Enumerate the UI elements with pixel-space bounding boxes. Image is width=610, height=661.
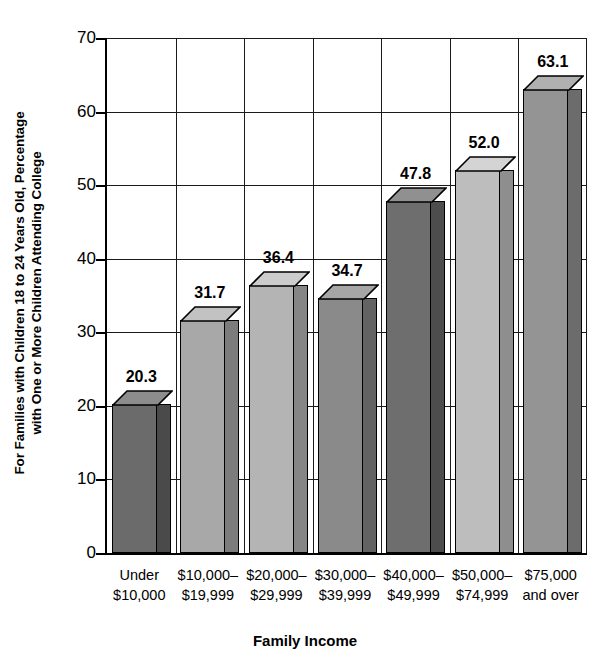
bar: [318, 284, 377, 553]
bar-top-face: [386, 187, 447, 203]
y-axis-tick-labels: 010203040506070: [50, 0, 96, 661]
x-axis-tick-label-line: $39,999: [315, 586, 375, 606]
bar-front-face: [112, 404, 157, 553]
y-axis-tick-label: 10: [52, 469, 96, 489]
bar-side-face: [225, 320, 239, 553]
bar-side-face: [500, 170, 514, 553]
bar-top-face: [249, 271, 310, 287]
y-axis-tick-mark: [96, 479, 107, 481]
x-axis-tick-label-line: Under: [113, 566, 165, 586]
x-axis-tick-label: $75,000and over: [522, 566, 578, 605]
gridline-horizontal: [107, 112, 587, 113]
y-axis-tick-label: 30: [52, 322, 96, 342]
y-axis-tick-label: 0: [52, 543, 96, 563]
bar-value-label: 20.3: [126, 368, 157, 386]
bar-side-face: [157, 404, 171, 553]
gridline-vertical: [518, 38, 519, 553]
bar-value-label: 34.7: [331, 262, 362, 280]
bar-front-face: [318, 298, 363, 553]
bar-front-face: [386, 201, 431, 553]
bar-side-face: [568, 89, 582, 553]
y-axis-tick-mark: [96, 332, 107, 334]
y-axis-tick-mark: [96, 406, 107, 408]
x-axis-tick-label: $10,000–$19,999: [178, 566, 238, 605]
plot-area: 20.331.736.434.747.852.063.1: [105, 38, 587, 555]
gridline-vertical: [381, 38, 382, 553]
x-axis-tick-label-line: $29,999: [246, 586, 306, 606]
x-axis-tick-label-line: $49,999: [383, 586, 443, 606]
bar-front-face: [523, 89, 568, 553]
bar-value-label: 36.4: [263, 249, 294, 267]
y-axis-tick-label: 40: [52, 249, 96, 269]
bar-top-face: [455, 156, 516, 172]
x-axis-tick-labels: Under$10,000$10,000–$19,999$20,000–$29,9…: [105, 566, 585, 614]
bar-side-face: [294, 285, 308, 553]
x-axis-tick-label-line: $40,000–: [383, 566, 443, 586]
bar-value-label: 52.0: [469, 134, 500, 152]
x-axis-tick-label-line: $30,000–: [315, 566, 375, 586]
bar-value-label: 31.7: [194, 284, 225, 302]
bar: [249, 271, 308, 553]
gridline-horizontal: [107, 185, 587, 186]
y-axis-tick-label: 60: [52, 102, 96, 122]
gridline-vertical: [450, 38, 451, 553]
gridline-vertical: [176, 38, 177, 553]
gridline-horizontal: [107, 259, 587, 260]
bar-top-face: [318, 284, 379, 300]
y-axis-tick-mark: [96, 112, 107, 114]
bar: [112, 390, 171, 553]
x-axis-tick-label: $50,000–$74,999: [452, 566, 512, 605]
x-axis-tick-label-line: and over: [522, 586, 578, 606]
bar-front-face: [455, 170, 500, 553]
bar: [455, 156, 514, 553]
bar-side-face: [363, 298, 377, 553]
y-axis-title: For Families with Children 18 to 24 Year…: [0, 0, 56, 585]
y-axis-tick-mark: [96, 185, 107, 187]
bar: [386, 187, 445, 553]
bar-value-label: 63.1: [537, 53, 568, 71]
bar: [523, 75, 582, 553]
x-axis-tick-label-line: $10,000: [113, 586, 165, 606]
bar-front-face: [180, 320, 225, 553]
gridline-vertical: [244, 38, 245, 553]
bar-chart-figure: For Families with Children 18 to 24 Year…: [0, 0, 610, 661]
bar-top-face: [112, 390, 173, 406]
y-axis-tick-mark: [96, 259, 107, 261]
y-axis-tick-mark: [96, 38, 107, 40]
x-axis-tick-label-line: $20,000–: [246, 566, 306, 586]
bar-value-label: 47.8: [400, 165, 431, 183]
bar: [180, 306, 239, 553]
y-axis-title-line-1: For Families with Children 18 to 24 Year…: [11, 13, 28, 573]
bar-front-face: [249, 285, 294, 553]
y-axis-tick-label: 20: [52, 396, 96, 416]
x-axis-tick-label-line: $74,999: [452, 586, 512, 606]
x-axis-tick-label: Under$10,000: [113, 566, 165, 605]
y-axis-title-line-2: with One or More Children Attending Coll…: [28, 13, 45, 573]
x-axis-tick-label: $40,000–$49,999: [383, 566, 443, 605]
y-axis-tick-label: 70: [52, 28, 96, 48]
x-axis-tick-label-line: $10,000–: [178, 566, 238, 586]
x-axis-tick-label: $20,000–$29,999: [246, 566, 306, 605]
bar-side-face: [431, 201, 445, 553]
plot-right-border: [586, 38, 587, 553]
bar-top-face: [523, 75, 584, 91]
gridline-vertical: [313, 38, 314, 553]
x-axis-tick-label-line: $75,000: [522, 566, 578, 586]
y-axis-tick-mark: [96, 553, 107, 555]
gridline-horizontal: [107, 38, 587, 39]
x-axis-tick-label-line: $19,999: [178, 586, 238, 606]
x-axis-tick-label: $30,000–$39,999: [315, 566, 375, 605]
y-axis-tick-label: 50: [52, 175, 96, 195]
x-axis-title: Family Income: [0, 632, 610, 649]
x-axis-tick-label-line: $50,000–: [452, 566, 512, 586]
bar-top-face: [180, 306, 241, 322]
